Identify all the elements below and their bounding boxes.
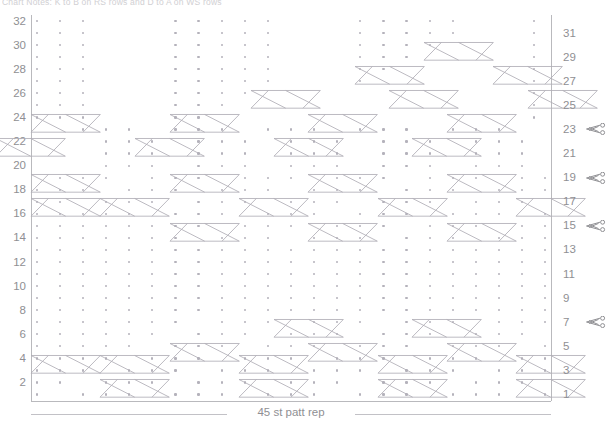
purl-stitch-dot [336, 165, 338, 167]
purl-stitch-dot [221, 369, 223, 371]
purl-stitch-dot [267, 32, 269, 34]
purl-stitch-dot [452, 309, 454, 311]
purl-stitch-dot [105, 225, 107, 227]
purl-stitch-dot [336, 297, 338, 299]
purl-stitch-dot [313, 165, 315, 167]
purl-stitch-dot [197, 273, 199, 275]
purl-stitch-dot [128, 237, 130, 239]
purl-stitch-dot [244, 44, 246, 46]
purl-stitch-dot [59, 56, 61, 58]
purl-stitch-dot [244, 225, 246, 227]
purl-stitch-dot [174, 32, 176, 34]
purl-stitch-dot [82, 92, 84, 94]
purl-stitch-dot [405, 128, 407, 130]
purl-stitch-dot [82, 345, 84, 347]
row-number-left-2: 2 [2, 376, 26, 388]
purl-stitch-dot [59, 285, 61, 287]
purl-stitch-dot [151, 249, 153, 251]
purl-stitch-dot [128, 309, 130, 311]
purl-stitch-dot [128, 285, 130, 287]
purl-stitch-dot [359, 213, 361, 215]
row-number-left-20: 20 [2, 159, 26, 171]
purl-stitch-dot [429, 237, 431, 239]
purl-stitch-dot [151, 225, 153, 227]
purl-stitch-dot [128, 152, 130, 154]
purl-stitch-dot [521, 152, 523, 154]
purl-stitch-dot [244, 261, 246, 263]
purl-stitch-dot [452, 20, 454, 22]
cable-cross-symbol [31, 174, 100, 193]
purl-stitch-dot [405, 189, 407, 191]
purl-stitch-dot [128, 225, 130, 227]
purl-stitch-dot [429, 285, 431, 287]
purl-stitch-dot [267, 20, 269, 22]
purl-stitch-dot [336, 201, 338, 203]
purl-stitch-dot [221, 297, 223, 299]
purl-stitch-dot [197, 261, 199, 263]
purl-stitch-dot [197, 44, 199, 46]
purl-stitch-dot [174, 213, 176, 215]
purl-stitch-dot [59, 321, 61, 323]
cable-cross-symbol [31, 355, 100, 374]
purl-stitch-dot [197, 381, 199, 383]
purl-stitch-dot [59, 273, 61, 275]
purl-stitch-dot [382, 309, 384, 311]
purl-stitch-dot [174, 321, 176, 323]
purl-stitch-dot [498, 369, 500, 371]
purl-stitch-dot [405, 333, 407, 335]
purl-stitch-dot [498, 261, 500, 263]
cable-cross-symbol [378, 379, 447, 398]
cable-cross-symbol [239, 198, 308, 217]
purl-stitch-dot [521, 189, 523, 191]
purl-stitch-dot [429, 273, 431, 275]
purl-stitch-dot [82, 104, 84, 106]
purl-stitch-dot [359, 261, 361, 263]
purl-stitch-dot [59, 20, 61, 22]
purl-stitch-dot [382, 261, 384, 263]
purl-stitch-dot [267, 273, 269, 275]
cable-cross-symbol [31, 198, 100, 217]
row-number-left-26: 26 [2, 87, 26, 99]
purl-stitch-dot [405, 321, 407, 323]
purl-stitch-dot [36, 56, 38, 58]
purl-stitch-dot [36, 333, 38, 335]
purl-stitch-dot [59, 309, 61, 311]
purl-stitch-dot [221, 56, 223, 58]
purl-stitch-dot [475, 201, 477, 203]
purl-stitch-dot [382, 273, 384, 275]
purl-stitch-dot [36, 44, 38, 46]
purl-stitch-dot [452, 249, 454, 251]
purl-stitch-dot [151, 333, 153, 335]
purl-stitch-dot [244, 321, 246, 323]
purl-stitch-dot [429, 249, 431, 251]
purl-stitch-dot [82, 56, 84, 58]
cable-cross-symbol [239, 379, 308, 398]
purl-stitch-dot [82, 237, 84, 239]
purl-stitch-dot [36, 273, 38, 275]
cable-cross-symbol [308, 223, 377, 242]
cable-cross-symbol [412, 319, 481, 338]
repeat-label: 45 st patt rep [31, 406, 551, 418]
purl-stitch-dot [244, 333, 246, 335]
cable-cross-symbol [0, 138, 66, 157]
purl-stitch-dot [405, 345, 407, 347]
purl-stitch-dot [105, 297, 107, 299]
purl-stitch-dot [221, 165, 223, 167]
purl-stitch-dot [197, 56, 199, 58]
row-number-right-29: 29 [563, 51, 593, 63]
purl-stitch-dot [382, 225, 384, 227]
purl-stitch-dot [221, 309, 223, 311]
purl-stitch-dot [36, 381, 38, 383]
purl-stitch-dot [151, 177, 153, 179]
purl-stitch-dot [429, 189, 431, 191]
purl-stitch-dot [359, 285, 361, 287]
scissors-icon-row-19 [585, 172, 607, 184]
cable-cross-symbol [251, 90, 320, 109]
cable-cross-symbol [308, 174, 377, 193]
row-number-right-25: 25 [563, 99, 593, 111]
purl-stitch-dot [36, 32, 38, 34]
purl-stitch-dot [336, 261, 338, 263]
purl-stitch-dot [267, 128, 269, 130]
purl-stitch-dot [382, 333, 384, 335]
purl-stitch-dot [359, 56, 361, 58]
